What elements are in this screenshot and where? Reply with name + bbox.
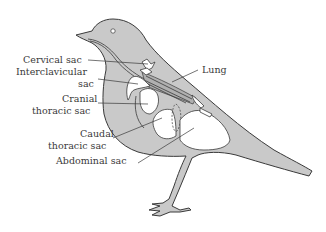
label-interclavicular-line1: Interclavicular bbox=[16, 66, 87, 77]
cranial-thoracic-sac bbox=[140, 89, 159, 114]
label-cervical-sac: Cervical sac bbox=[23, 54, 82, 65]
label-caudal-line2: thoracic sac bbox=[48, 140, 106, 151]
bird-air-sac-diagram: Cervical sac Interclavicular sac Cranial… bbox=[0, 0, 326, 232]
label-caudal-line1: Caudal bbox=[80, 128, 114, 139]
label-lung: Lung bbox=[202, 64, 227, 75]
label-abdominal-sac: Abdominal sac bbox=[55, 155, 127, 166]
label-cranial-line1: Cranial bbox=[62, 93, 97, 104]
eye bbox=[111, 29, 115, 33]
label-interclavicular-line2: sac bbox=[78, 78, 94, 89]
label-cranial-line2: thoracic sac bbox=[32, 105, 90, 116]
